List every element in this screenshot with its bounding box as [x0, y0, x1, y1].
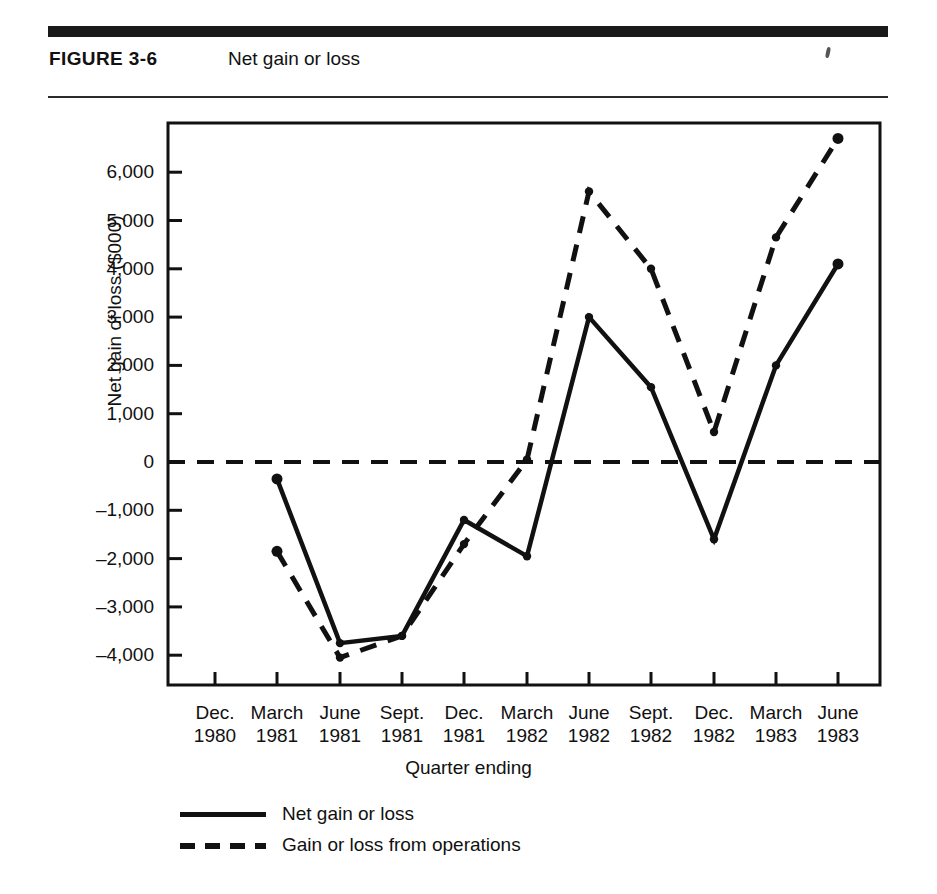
- legend-swatch-solid-icon: [180, 807, 266, 821]
- chart-container: Net gain of loss ($000) 6,0005,0004,0003…: [0, 0, 937, 894]
- legend-item-net-gain-or-loss: Net gain or loss: [180, 798, 521, 829]
- x-axis-title: Quarter ending: [0, 757, 937, 779]
- data-point: [460, 540, 468, 548]
- legend-label-1: Gain or loss from operations: [282, 834, 521, 856]
- legend-label-0: Net gain or loss: [282, 803, 414, 825]
- data-point: [272, 546, 283, 557]
- data-point: [460, 516, 468, 524]
- data-point: [272, 473, 283, 484]
- data-point: [647, 383, 655, 391]
- data-point: [710, 535, 718, 543]
- x-axis-ticks: [215, 672, 838, 685]
- data-point: [523, 455, 531, 463]
- data-point: [585, 313, 593, 321]
- data-point: [523, 552, 531, 560]
- data-point: [772, 361, 780, 369]
- y-axis-ticks: [168, 172, 182, 655]
- data-point: [647, 265, 655, 273]
- data-point: [336, 653, 344, 661]
- chart-legend: Net gain or loss Gain or loss from opera…: [180, 798, 521, 860]
- series-line-1: [277, 138, 838, 657]
- data-point: [585, 187, 593, 195]
- legend-swatch-dashed-icon: [180, 838, 266, 852]
- data-point: [833, 133, 844, 144]
- data-point: [772, 233, 780, 241]
- plot-frame: [168, 123, 880, 685]
- legend-item-gain-or-loss-from-operations: Gain or loss from operations: [180, 829, 521, 860]
- data-point: [710, 428, 718, 436]
- data-point: [833, 258, 844, 269]
- figure-page: FIGURE 3-6 Net gain or loss Net gain of …: [0, 0, 937, 894]
- data-series-group: [272, 133, 844, 662]
- data-point: [336, 639, 344, 647]
- data-point: [398, 632, 406, 640]
- series-line-0: [277, 264, 838, 643]
